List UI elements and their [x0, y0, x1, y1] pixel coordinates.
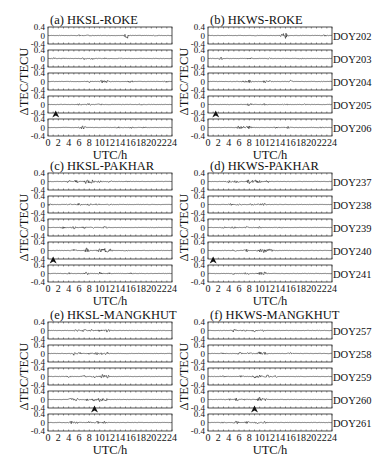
subplot-doy238: 0.40-0.4 — [31, 191, 172, 218]
doy-label: DOY257 — [333, 326, 372, 337]
x-tick-label: 14 — [275, 137, 285, 148]
tec-series-line — [208, 57, 332, 59]
x-tick-label: 12 — [105, 137, 115, 148]
tec-series-line — [48, 329, 172, 332]
x-tick-label: 0 — [206, 137, 211, 148]
tec-series-line — [48, 248, 172, 252]
x-tick-label: 20 — [306, 283, 316, 294]
y-tick-label: -0.4 — [191, 131, 206, 141]
x-tick-label: 4 — [226, 283, 231, 294]
doy-label: DOY237 — [333, 177, 372, 188]
x-tick-label: 0 — [46, 137, 51, 148]
tec-series-line — [48, 398, 172, 401]
panel-e: (e) HKSL-MANGKHUT0.40-0.40.40-0.40.40-0.… — [17, 308, 177, 457]
x-tick-label: 22 — [317, 283, 327, 294]
x-tick-label: 12 — [265, 283, 275, 294]
y-tick-label: -0.4 — [31, 426, 46, 436]
x-tick-label: 6 — [77, 432, 82, 443]
tec-series-line — [208, 352, 332, 355]
x-tick-label: 16 — [286, 283, 296, 294]
tec-series-line — [48, 352, 172, 355]
x-tick-label: 12 — [265, 432, 275, 443]
x-tick-label: 12 — [105, 283, 115, 294]
x-tick-label: 8 — [247, 432, 252, 443]
tec-series-line — [208, 180, 332, 184]
x-tick-label: 20 — [306, 137, 316, 148]
panel-title: (f) HKWS-MANGKHUT — [210, 308, 340, 322]
x-tick-label: 10 — [95, 283, 105, 294]
subplot-doy238: 0.40-0.4DOY238 — [191, 191, 372, 218]
panel-b: (b) HKWS-ROKE0.40-0.4DOY2020.40-0.4DOY20… — [177, 13, 372, 162]
x-tick-label: 8 — [247, 137, 252, 148]
x-tick-label: 22 — [157, 432, 167, 443]
x-tick-label: 8 — [87, 137, 92, 148]
tec-series-line — [48, 272, 172, 275]
figure: (a) HKSL-ROKE0.40-0.40.40-0.40.40-0.40.4… — [0, 0, 380, 469]
subplot-doy204: 0.40-0.4DOY204 — [191, 68, 372, 95]
x-tick-label: 2 — [216, 432, 221, 443]
panel-title: (c) HKSL-PAKHAR — [50, 159, 155, 173]
panel-d: (d) HKWS-PAKHAR0.40-0.4DOY2370.40-0.4DOY… — [177, 159, 372, 308]
x-tick-label: 20 — [306, 432, 316, 443]
y-axis-label: ΔTEC/TECU — [177, 343, 191, 411]
x-axis-label: UTC/h — [253, 443, 288, 457]
doy-label: DOY202 — [333, 31, 372, 42]
doy-label: DOY259 — [333, 372, 372, 383]
subplot-doy203: 0.40-0.4DOY203 — [191, 45, 372, 72]
x-tick-label: 18 — [136, 432, 146, 443]
x-tick-label: 4 — [66, 137, 71, 148]
x-tick-label: 14 — [115, 137, 125, 148]
x-tick-label: 24 — [167, 283, 177, 294]
y-axis-label: ΔTEC/TECU — [17, 343, 31, 411]
subplot-doy259: 0.40-0.4DOY259 — [191, 363, 372, 390]
x-tick-label: 0 — [46, 432, 51, 443]
event-arrow-icon — [210, 257, 217, 264]
x-tick-label: 18 — [296, 432, 306, 443]
x-tick-label: 6 — [237, 432, 242, 443]
x-tick-label: 4 — [226, 432, 231, 443]
tec-series-line — [208, 80, 332, 83]
tec-series-line — [208, 397, 332, 401]
tec-series-line — [48, 227, 172, 229]
doy-label: DOY260 — [333, 395, 372, 406]
x-tick-label: 4 — [66, 432, 71, 443]
panel-title: (e) HKSL-MANGKHUT — [50, 308, 177, 322]
tec-series-line — [208, 126, 332, 129]
x-tick-label: 0 — [46, 283, 51, 294]
x-tick-label: 2 — [56, 137, 61, 148]
y-tick-label: -0.4 — [31, 131, 46, 141]
doy-label: DOY239 — [333, 223, 372, 234]
tec-series-line — [48, 126, 172, 129]
x-axis-label: UTC/h — [93, 294, 128, 308]
x-tick-label: 24 — [327, 432, 337, 443]
x-tick-label: 2 — [216, 137, 221, 148]
x-tick-label: 22 — [157, 137, 167, 148]
x-tick-label: 16 — [126, 432, 136, 443]
x-tick-label: 6 — [77, 137, 82, 148]
event-arrow-icon — [91, 406, 98, 413]
x-tick-label: 10 — [255, 432, 265, 443]
subplot-doy259: 0.40-0.4 — [31, 363, 172, 390]
y-axis-label: ΔTEC/TECU — [17, 48, 31, 116]
tec-series-line — [48, 58, 172, 60]
tec-series-line — [208, 421, 332, 424]
doy-label: DOY240 — [333, 246, 372, 257]
subplot-doy239: 0.40-0.4 — [31, 214, 172, 241]
y-axis-label: ΔTEC/TECU — [177, 194, 191, 262]
x-tick-label: 16 — [286, 432, 296, 443]
y-tick-label: -0.4 — [191, 277, 206, 287]
doy-label: DOY238 — [333, 200, 372, 211]
x-tick-label: 20 — [146, 137, 156, 148]
x-tick-label: 8 — [87, 283, 92, 294]
x-tick-label: 10 — [95, 137, 105, 148]
x-tick-label: 18 — [296, 137, 306, 148]
x-tick-label: 20 — [146, 432, 156, 443]
x-tick-label: 14 — [115, 432, 125, 443]
x-tick-label: 8 — [247, 283, 252, 294]
x-tick-label: 6 — [77, 283, 82, 294]
tec-series-line — [48, 104, 172, 106]
x-tick-label: 12 — [265, 137, 275, 148]
x-tick-label: 6 — [237, 137, 242, 148]
panel-a: (a) HKSL-ROKE0.40-0.40.40-0.40.40-0.40.4… — [17, 13, 177, 162]
x-tick-label: 24 — [327, 137, 337, 148]
